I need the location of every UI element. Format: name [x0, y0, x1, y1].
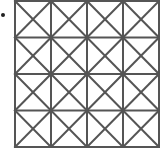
corner-dot-marker [1, 13, 5, 17]
grid-diagram [0, 0, 160, 148]
